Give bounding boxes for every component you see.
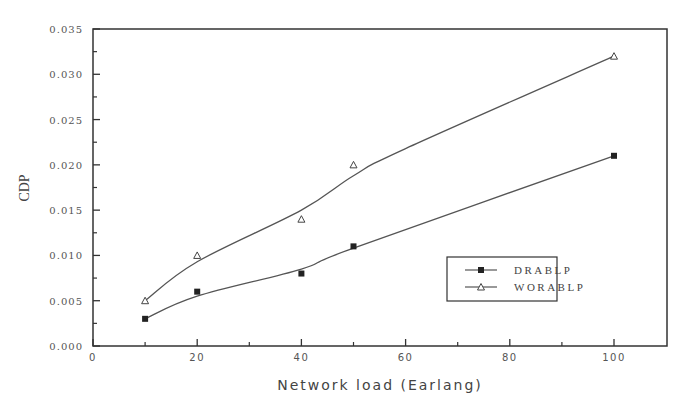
data-point <box>142 316 148 322</box>
x-tick-label: 0 <box>89 352 97 363</box>
legend-marker <box>478 267 484 273</box>
plot-frame <box>93 29 667 346</box>
y-tick-label: 0.035 <box>49 24 83 35</box>
x-axis-label: Network load (Earlang) <box>277 377 483 393</box>
data-point <box>611 53 618 60</box>
x-tick-label: 20 <box>189 352 205 363</box>
y-tick-label: 0.020 <box>49 160 83 171</box>
legend-label: WORABLP <box>514 281 585 293</box>
data-point <box>611 153 617 159</box>
x-axis-ticks: 020406080100 <box>89 339 626 363</box>
y-axis-label: CDP <box>17 174 32 201</box>
data-point <box>298 271 304 277</box>
data-point <box>351 243 357 249</box>
y-tick-label: 0.005 <box>49 296 83 307</box>
legend-label: DRABLP <box>514 264 572 276</box>
y-tick-label: 0.000 <box>49 341 83 352</box>
data-point <box>350 161 357 168</box>
data-point <box>194 289 200 295</box>
x-tick-label: 80 <box>502 352 518 363</box>
y-tick-label: 0.025 <box>49 115 83 126</box>
y-tick-label: 0.030 <box>49 69 83 80</box>
x-tick-label: 100 <box>602 352 626 363</box>
data-point <box>194 252 201 258</box>
y-tick-label: 0.010 <box>49 250 83 261</box>
y-tick-label: 0.015 <box>49 205 83 216</box>
x-tick-label: 40 <box>294 352 310 363</box>
x-tick-label: 60 <box>398 352 414 363</box>
chart: 0.0000.0050.0100.0150.0200.0250.0300.035… <box>0 0 692 404</box>
data-point <box>298 216 305 223</box>
legend: DRABLPWORABLP <box>447 257 585 301</box>
